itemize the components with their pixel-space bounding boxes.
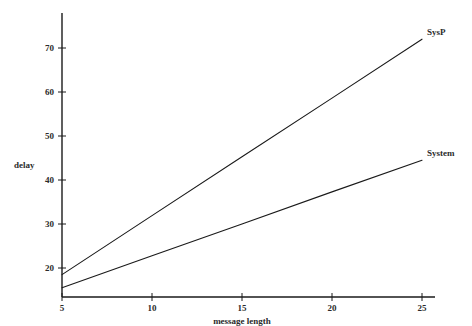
series-label-sysp: SysP	[427, 27, 446, 37]
axes-group	[62, 13, 435, 297]
x-tick-label: 20	[328, 303, 337, 313]
y-tick-label: 50	[0, 131, 54, 141]
chart-plot-area	[0, 0, 472, 326]
tick-marks-group	[58, 48, 422, 301]
y-tick-label: 70	[0, 43, 54, 53]
y-tick-label: 40	[0, 175, 54, 185]
y-tick-label: 60	[0, 87, 54, 97]
x-tick-label: 10	[148, 303, 157, 313]
series-label-system: System	[427, 148, 455, 158]
x-axis-title: message length	[213, 316, 271, 326]
x-tick-label: 15	[238, 303, 247, 313]
x-tick-label: 25	[418, 303, 427, 313]
data-series-group	[62, 39, 422, 288]
y-tick-label: 30	[0, 219, 54, 229]
y-axis-title: delay	[14, 160, 35, 170]
x-tick-label: 5	[60, 303, 65, 313]
chart-figure: 203040506070 510152025 SysPSystem delay …	[0, 0, 472, 326]
y-tick-label: 20	[0, 263, 54, 273]
